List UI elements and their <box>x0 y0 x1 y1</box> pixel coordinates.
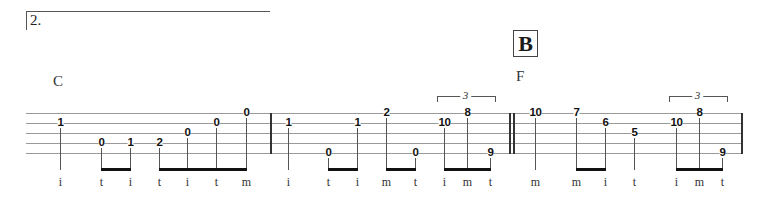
note-stem <box>444 127 445 170</box>
beam <box>386 168 416 171</box>
fret-number: 0 <box>213 117 220 128</box>
note-stem <box>216 127 217 170</box>
fret-number: 7 <box>573 107 580 118</box>
note-stem <box>288 127 289 170</box>
fret-number: 8 <box>696 107 703 118</box>
staff-line-2 <box>26 123 741 124</box>
chord-symbol: C <box>53 73 63 90</box>
note-stem <box>467 117 468 170</box>
double-barline <box>509 113 511 154</box>
barline <box>270 113 272 154</box>
beam <box>576 168 606 171</box>
beam <box>444 168 491 171</box>
note-stem <box>605 127 606 170</box>
note-stem <box>535 117 536 170</box>
fret-number: 0 <box>184 127 191 138</box>
fret-number: 2 <box>383 107 390 118</box>
fret-number: 1 <box>354 117 361 128</box>
right-hand-finger: m <box>463 175 472 190</box>
note-stem <box>101 147 102 170</box>
note-stem <box>576 117 577 170</box>
double-barline <box>513 113 515 154</box>
fret-number: 2 <box>156 137 163 148</box>
right-hand-finger: i <box>604 175 607 190</box>
right-hand-finger: m <box>572 175 581 190</box>
note-stem <box>634 137 635 170</box>
fret-number: 10 <box>529 107 542 118</box>
section-rule-left <box>26 11 27 30</box>
fret-number: 6 <box>602 117 609 128</box>
right-hand-finger: t <box>158 175 161 190</box>
fret-number: 10 <box>670 117 683 128</box>
fret-number: 0 <box>325 147 332 158</box>
right-hand-finger: m <box>382 175 391 190</box>
fret-number: 8 <box>464 107 471 118</box>
right-hand-finger: m <box>242 175 251 190</box>
right-hand-finger: t <box>489 175 492 190</box>
right-hand-finger: i <box>443 175 446 190</box>
right-hand-finger: t <box>721 175 724 190</box>
right-hand-finger: t <box>100 175 103 190</box>
right-hand-finger: i <box>59 175 62 190</box>
right-hand-finger: t <box>327 175 330 190</box>
note-stem <box>699 117 700 170</box>
note-stem <box>676 127 677 170</box>
note-stem <box>357 127 358 170</box>
chord-symbol: F <box>516 68 524 85</box>
fret-number: 0 <box>243 107 250 118</box>
fret-number: 10 <box>438 117 451 128</box>
triplet-number: 3 <box>460 89 472 101</box>
right-hand-finger: m <box>695 175 704 190</box>
right-hand-finger: m <box>531 175 540 190</box>
beam <box>101 168 131 171</box>
right-hand-finger: i <box>356 175 359 190</box>
beam <box>676 168 723 171</box>
fret-number: 9 <box>487 147 494 158</box>
note-stem <box>159 147 160 170</box>
right-hand-finger: t <box>633 175 636 190</box>
barline <box>741 113 743 154</box>
beam <box>328 168 358 171</box>
right-hand-finger: i <box>675 175 678 190</box>
fret-number: 9 <box>719 147 726 158</box>
note-stem <box>246 117 247 170</box>
beam <box>159 168 247 171</box>
fret-number: 1 <box>127 137 134 148</box>
right-hand-finger: i <box>186 175 189 190</box>
right-hand-finger: i <box>287 175 290 190</box>
fret-number: 0 <box>98 137 105 148</box>
fret-number: 5 <box>631 127 638 138</box>
triplet-number: 3 <box>692 89 704 101</box>
note-stem <box>130 147 131 170</box>
note-stem <box>386 117 387 170</box>
note-stem <box>60 127 61 170</box>
fret-number: 0 <box>412 147 419 158</box>
section-rule <box>26 11 270 12</box>
section-number: 2. <box>30 12 41 29</box>
right-hand-finger: i <box>129 175 132 190</box>
right-hand-finger: t <box>215 175 218 190</box>
note-stem <box>187 137 188 170</box>
right-hand-finger: t <box>414 175 417 190</box>
rehearsal-mark: B <box>513 30 538 57</box>
fret-number: 1 <box>57 117 64 128</box>
fret-number: 1 <box>285 117 292 128</box>
